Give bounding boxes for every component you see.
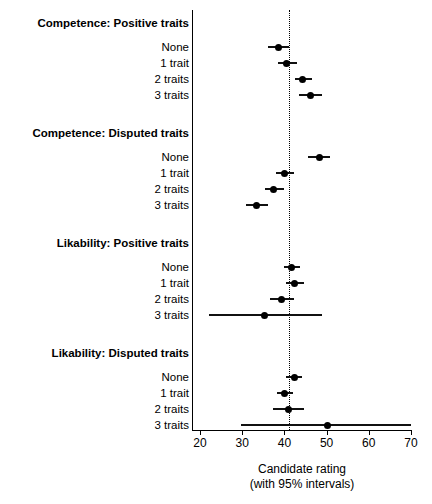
row-label: 1 trait: [160, 58, 189, 70]
estimate-point: [324, 422, 331, 429]
x-axis-tick-label: 50: [312, 436, 342, 450]
row-label: 2 traits: [154, 184, 189, 196]
group-heading: Likability: Disputed traits: [52, 348, 189, 360]
x-axis-line: [192, 430, 411, 431]
row-label: 1 trait: [160, 168, 189, 180]
row-label: 2 traits: [154, 404, 189, 416]
x-axis-title: Candidate rating: [192, 462, 412, 476]
group-heading: Competence: Disputed traits: [32, 128, 189, 140]
forest-plot: 203040506070Candidate rating(with 95% in…: [0, 0, 432, 504]
x-axis-tick-label: 20: [185, 436, 215, 450]
row-label: 1 trait: [160, 278, 189, 290]
estimate-point: [307, 92, 314, 99]
row-label: 2 traits: [154, 74, 189, 86]
estimate-point: [281, 390, 288, 397]
estimate-point: [316, 154, 323, 161]
x-axis-tick: [200, 430, 201, 435]
x-axis-tick: [242, 430, 243, 435]
x-axis-tick: [284, 430, 285, 435]
estimate-point: [275, 44, 282, 51]
row-label: None: [162, 42, 190, 54]
estimate-point: [281, 170, 288, 177]
x-axis-tick: [369, 430, 370, 435]
estimate-point: [299, 76, 306, 83]
row-label: 3 traits: [154, 420, 189, 432]
row-label: None: [162, 152, 190, 164]
row-label: 3 traits: [154, 90, 189, 102]
group-heading: Likability: Positive traits: [57, 238, 189, 250]
row-label: 3 traits: [154, 310, 189, 322]
estimate-point: [285, 406, 292, 413]
reference-line: [289, 10, 290, 430]
estimate-point: [261, 312, 268, 319]
x-axis-tick-label: 30: [227, 436, 257, 450]
x-axis-tick: [411, 430, 412, 435]
row-label: 1 trait: [160, 388, 189, 400]
row-label: None: [162, 372, 190, 384]
row-label: 2 traits: [154, 294, 189, 306]
x-axis-tick-label: 60: [354, 436, 384, 450]
estimate-point: [278, 296, 285, 303]
estimate-point: [291, 374, 298, 381]
x-axis-tick-label: 40: [269, 436, 299, 450]
estimate-point: [270, 186, 277, 193]
estimate-point: [253, 202, 260, 209]
x-axis-tick-label: 70: [396, 436, 426, 450]
estimate-point: [288, 264, 295, 271]
x-axis-tick: [327, 430, 328, 435]
row-label: 3 traits: [154, 200, 189, 212]
estimate-point: [283, 60, 290, 67]
estimate-point: [291, 280, 298, 287]
x-axis-subtitle: (with 95% intervals): [192, 477, 412, 491]
y-axis-line: [192, 10, 193, 430]
row-label: None: [162, 262, 190, 274]
group-heading: Competence: Positive traits: [38, 18, 189, 30]
